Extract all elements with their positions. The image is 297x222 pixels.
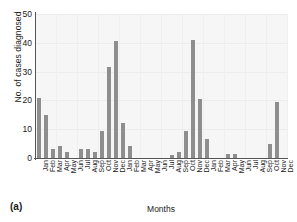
x-tick-label: Aug	[175, 160, 182, 172]
bar-slot	[56, 14, 63, 158]
bar	[114, 41, 118, 158]
bar	[198, 99, 202, 158]
x-tick-label: Jul	[168, 160, 175, 169]
x-tick-label: Sep	[98, 160, 105, 172]
bar-slot	[154, 14, 161, 158]
bar-slot	[63, 14, 70, 158]
bar-slot	[112, 14, 119, 158]
x-tick-label: Jul	[252, 160, 259, 169]
x-tick-label: Dec	[287, 160, 294, 172]
x-tick-label: Aug	[91, 160, 98, 172]
bar-slot	[280, 14, 287, 158]
bar-slot	[259, 14, 266, 158]
bar-slot	[77, 14, 84, 158]
x-tick-label: Feb	[217, 160, 224, 172]
bar-slot	[266, 14, 273, 158]
x-tick-label: Jun	[161, 160, 168, 171]
panel-label: (a)	[10, 201, 22, 212]
bar-slot	[91, 14, 98, 158]
bar-slot	[224, 14, 231, 158]
x-tick-label: May	[154, 160, 161, 173]
bar	[86, 149, 90, 158]
x-tick-label: Mar	[140, 160, 147, 172]
bar	[51, 149, 55, 158]
x-tick-label: Sep	[182, 160, 189, 172]
bar-slot	[70, 14, 77, 158]
figure-panel-a: No. of cases diagnosed 01020304050 JanFe…	[0, 0, 297, 222]
bar-slot	[119, 14, 126, 158]
bar-slot	[210, 14, 217, 158]
x-tick-label: Oct	[273, 160, 280, 171]
bar	[121, 123, 125, 158]
x-tick-label: Mar	[224, 160, 231, 172]
bar-slot	[203, 14, 210, 158]
bar-slot	[231, 14, 238, 158]
bar	[275, 102, 279, 158]
y-axis-tick-labels: 01020304050	[12, 14, 32, 158]
bar	[268, 144, 272, 158]
y-tick-label: 20	[23, 96, 32, 105]
bar-slot	[140, 14, 147, 158]
x-axis-tick-labels: JanFebMarAprMayJunJulAugSepOctNovDecJanF…	[35, 159, 287, 193]
bar-slot	[126, 14, 133, 158]
x-tick-label: Nov	[112, 160, 119, 172]
bar-slot	[273, 14, 280, 158]
x-tick-label: Jan	[210, 160, 217, 171]
y-axis-line	[35, 12, 36, 160]
x-tick-label: Sep	[266, 160, 273, 172]
bar-slot	[252, 14, 259, 158]
bar-slot	[105, 14, 112, 158]
bar-slot	[49, 14, 56, 158]
x-tick-label: Oct	[189, 160, 196, 171]
bar-slot	[161, 14, 168, 158]
x-tick-label: May	[70, 160, 77, 173]
bar	[37, 98, 41, 158]
x-tick-label: Jul	[84, 160, 91, 169]
y-tick-label: 0	[27, 154, 32, 163]
bar-slot	[35, 14, 42, 158]
x-tick-label: Nov	[196, 160, 203, 172]
x-tick-label: Nov	[280, 160, 287, 172]
x-tick-label: Feb	[133, 160, 140, 172]
bar-slot	[196, 14, 203, 158]
bar-slot	[42, 14, 49, 158]
x-tick-label: Jan	[42, 160, 49, 171]
x-tick-label: Apr	[231, 160, 238, 171]
bar-slot	[84, 14, 91, 158]
bar-slot	[245, 14, 252, 158]
bar-slot	[238, 14, 245, 158]
bar	[191, 40, 195, 158]
bar-slot	[147, 14, 154, 158]
x-tick-label: Dec	[119, 160, 126, 172]
x-tick-label: Feb	[49, 160, 56, 172]
bar-slot	[182, 14, 189, 158]
bar-slot	[168, 14, 175, 158]
x-tick-label: Jun	[245, 160, 252, 171]
bar-slot	[98, 14, 105, 158]
bar	[79, 149, 83, 158]
x-tick-label: Oct	[105, 160, 112, 171]
bar	[44, 115, 48, 158]
gridline-vertical	[287, 14, 288, 158]
x-tick-label: May	[238, 160, 245, 173]
bar-slot	[133, 14, 140, 158]
y-tick-label: 30	[23, 67, 32, 76]
bar	[100, 131, 104, 158]
x-tick-label: Mar	[56, 160, 63, 172]
bar	[58, 146, 62, 158]
bar-series	[35, 14, 287, 158]
bar	[107, 67, 111, 158]
y-tick-label: 10	[23, 125, 32, 134]
bar	[128, 146, 132, 158]
y-tick-label: 40	[23, 39, 32, 48]
x-tick-label: Apr	[63, 160, 70, 171]
x-tick-label: Aug	[259, 160, 266, 172]
bar	[184, 131, 188, 158]
bar-slot	[217, 14, 224, 158]
y-tick-label: 50	[23, 10, 32, 19]
x-tick-label: Jan	[126, 160, 133, 171]
x-tick-label: Apr	[147, 160, 154, 171]
x-tick-label: Dec	[203, 160, 210, 172]
bar-slot	[189, 14, 196, 158]
bar	[205, 139, 209, 158]
